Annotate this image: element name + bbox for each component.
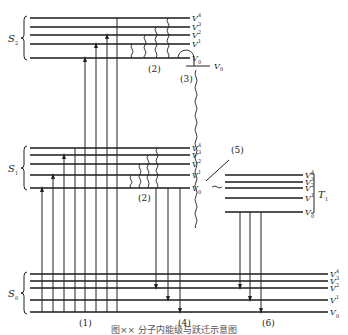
state-label-S2: S: [8, 33, 15, 44]
wavy-relaxation: [144, 35, 146, 58]
process-label-5: (5): [231, 145, 244, 155]
process-label-1: (1): [79, 318, 92, 328]
vib-level-subscript: 0: [311, 213, 314, 219]
wavy-relaxation: [156, 148, 158, 188]
vib-level-subscript: 1: [198, 38, 201, 44]
wavy-relaxation: [155, 27, 157, 58]
transitions: [40, 18, 263, 314]
vib-level-subscript: 0: [198, 59, 201, 65]
process-label-2a: (2): [148, 64, 161, 74]
state-brace: [21, 16, 27, 60]
isc-pointer-line: [206, 160, 229, 181]
vib-level-subscript: 4: [198, 142, 201, 148]
vib-level-subscript: 2: [198, 158, 201, 164]
state-label-S1: S: [8, 163, 15, 174]
state-label-subscript: 1: [15, 170, 18, 176]
vib-level-subscript: 3: [198, 21, 201, 27]
vib-level-subscript: 1: [198, 169, 201, 175]
process-label-2b: (2): [138, 193, 151, 203]
vib-level-subscript: 4: [336, 268, 339, 274]
wavy-relaxation: [167, 18, 169, 58]
vib-level-subscript: 4: [198, 12, 201, 18]
vib-level-subscript: 2: [198, 29, 201, 35]
process-label-6: (6): [262, 318, 275, 328]
wavy-relaxation: [131, 44, 133, 58]
wavy-relaxation: [139, 164, 141, 188]
state-brace: [21, 272, 27, 314]
vib-level-subscript: 3: [336, 275, 339, 281]
vib-level-subscript: 3: [198, 149, 201, 155]
vib-level-subscript: 2: [336, 282, 339, 288]
state-brace: [21, 146, 27, 190]
intersystem-crossing-wave: [212, 186, 222, 188]
wavy-relaxation: [130, 175, 132, 188]
process-label-3: (3): [180, 74, 193, 84]
state-label-subscript: 0: [15, 295, 18, 301]
state-label-subscript: 1: [325, 196, 328, 202]
figure-caption: 图×× 分子内能级与跃迁示意图: [111, 324, 237, 335]
vib-level-subscript: 1: [336, 294, 339, 300]
vib-level-subscript: 0: [336, 313, 339, 319]
state-label-S0: S: [8, 288, 15, 299]
vib-level-subscript: 0: [198, 189, 201, 195]
wavy-relaxation: [147, 155, 149, 188]
state-label-subscript: 2: [15, 40, 18, 46]
jablonski-diagram: V4V3V2V1V0S2V4V3V2V1V0S1V4V3V2V1V0T1V4V3…: [0, 0, 348, 335]
ic-level-subscript: 0: [220, 66, 223, 72]
